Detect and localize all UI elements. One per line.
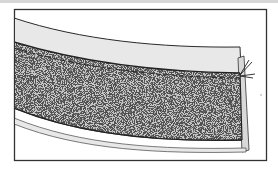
diagram-canvas [0, 0, 278, 171]
